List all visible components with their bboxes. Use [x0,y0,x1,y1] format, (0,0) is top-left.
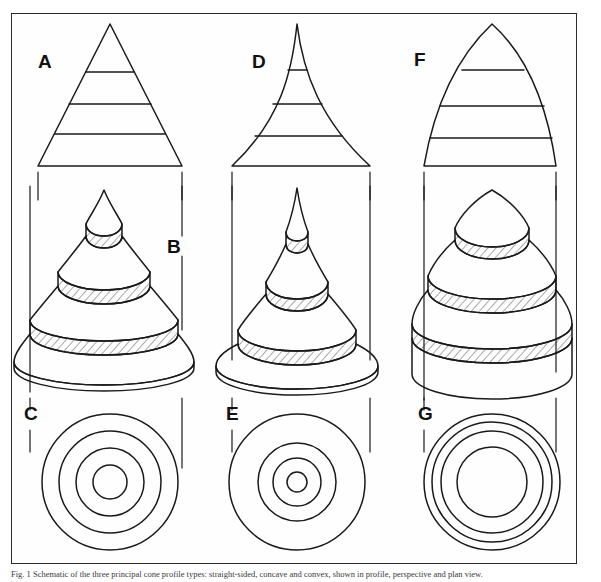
panel-b-bracket [30,186,182,392]
panel-label-b: B [167,237,181,256]
panel-e-bracket [232,186,370,360]
panel-e-perspective-concave [216,188,378,395]
panel-label-d: D [252,52,266,71]
panel-label-f: F [414,50,426,69]
figure-caption: Fig. 1 Schematic of the three principal … [11,570,591,580]
panel-d-profile-concave [232,24,370,166]
figure-drawing-canvas [0,0,601,582]
panel-g-perspective-convex [412,190,572,399]
panel-f-profile-convex [424,24,556,166]
panel-label-c: C [24,404,38,423]
panel-a-bracket [38,172,182,200]
figure-root: A B C D E F G Fig. 1 Schematic of the th… [0,0,601,582]
panel-e-plan-concave [229,414,365,550]
panel-a-profile-straight [38,24,182,166]
panel-label-g: G [418,404,433,423]
panel-f-bracket [424,172,556,200]
panel-c-bracket [30,398,182,468]
panel-label-e: E [226,404,239,423]
panel-g-plan-bracket [424,398,556,452]
panel-label-a: A [38,52,52,71]
panel-b-perspective-straight [14,190,194,391]
panel-c-plan-straight [42,414,178,550]
panel-g-plan-convex [424,414,560,550]
panel-d-bracket [232,172,370,200]
